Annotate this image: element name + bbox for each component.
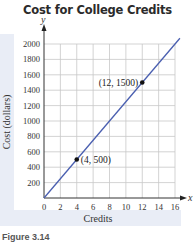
x-tick-label: 0 <box>42 202 46 212</box>
x-tick-label: 14 <box>154 202 163 212</box>
data-point-label: (12, 1500) <box>99 78 139 89</box>
y-tick-label: 600 <box>27 147 40 157</box>
x-tick-label: 12 <box>138 202 147 212</box>
y-tick-label: 400 <box>27 162 40 172</box>
y-axis-symbol: y <box>40 14 46 25</box>
y-axis-title: Cost (dollars) <box>1 95 13 150</box>
data-point <box>74 157 79 162</box>
x-axis-title: Credits <box>84 213 113 224</box>
x-tick-label: 8 <box>107 202 111 212</box>
y-tick-label: 1800 <box>23 54 40 64</box>
y-tick-label: 800 <box>27 131 40 141</box>
data-point-label: (4, 500) <box>81 155 111 166</box>
y-tick-label: 2000 <box>23 39 40 49</box>
x-tick-label: 10 <box>122 202 131 212</box>
x-axis-arrow-icon <box>180 196 187 201</box>
cost-line <box>44 38 180 198</box>
y-tick-label: 200 <box>27 178 40 188</box>
figure-caption: Figure 3.14 <box>2 232 50 242</box>
y-axis-arrow-icon <box>42 24 47 31</box>
y-tick-label: 1400 <box>23 85 40 95</box>
y-tick-label: 1000 <box>23 116 40 126</box>
x-tick-label: 16 <box>171 202 180 212</box>
y-tick-label: 1200 <box>23 101 40 111</box>
x-tick-label: 2 <box>58 202 62 212</box>
x-axis-symbol: x <box>187 192 193 203</box>
x-tick-label: 6 <box>91 202 95 212</box>
data-point <box>140 80 145 85</box>
y-tick-label: 1600 <box>23 70 40 80</box>
